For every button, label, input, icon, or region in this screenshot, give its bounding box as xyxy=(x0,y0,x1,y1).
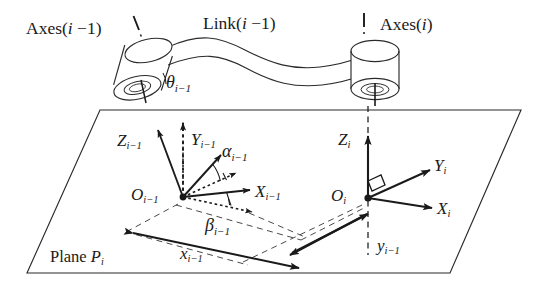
figure-root: Axes(i −1) Axes(i) Link(i −1) θi−1 Zi−1 … xyxy=(0,0,548,291)
label-y-prev: Yi−1 xyxy=(191,131,216,151)
label-o-curr: Oi xyxy=(331,187,346,207)
label-o-prev: Oi−1 xyxy=(131,186,159,206)
cylinder-joint-icon xyxy=(111,34,174,104)
label-x-prev: Xi−1 xyxy=(255,183,281,203)
label-z-prev: Zi−1 xyxy=(117,132,142,152)
curved-link-icon xyxy=(168,38,360,86)
label-beta-prev: βi−1 xyxy=(205,216,230,237)
origin-point-prev xyxy=(180,194,187,201)
origin-point-curr xyxy=(364,194,371,201)
label-y-curr: Yi xyxy=(434,157,446,177)
label-x-curr: Xi xyxy=(437,200,450,220)
label-y-offset: yi−1 xyxy=(377,237,400,257)
label-x-offset: xi−1 xyxy=(180,245,203,265)
label-axes-curr: Axes(i) xyxy=(380,16,433,34)
label-alpha-prev: αi−1 xyxy=(222,142,248,163)
label-link-prev: Link(i −1) xyxy=(203,15,276,33)
dashed-axis-icon xyxy=(134,16,142,37)
label-plane: Plane Pi xyxy=(50,249,104,268)
label-z-curr: Zi xyxy=(338,131,350,151)
label-axes-prev: Axes(i −1) xyxy=(26,20,102,38)
label-theta-prev: θi−1 xyxy=(166,73,191,94)
